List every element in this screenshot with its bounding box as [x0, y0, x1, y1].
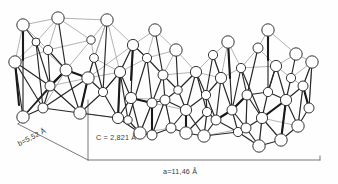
atom — [222, 36, 234, 48]
atom — [127, 39, 138, 50]
atom — [270, 60, 281, 71]
atom — [74, 107, 86, 119]
atom — [38, 103, 48, 113]
atom — [158, 70, 168, 80]
atom — [198, 130, 210, 142]
atom — [124, 116, 132, 124]
axis-label-c: C = 2,821 Å — [96, 133, 136, 142]
atom — [211, 115, 221, 125]
atom — [180, 127, 192, 139]
atom — [304, 103, 314, 113]
atom — [43, 45, 52, 54]
atom — [87, 36, 95, 44]
atom — [263, 87, 272, 96]
atom — [9, 56, 21, 68]
lattice-canvas — [0, 0, 338, 184]
atom — [215, 72, 226, 83]
atom — [149, 24, 161, 36]
atom — [82, 72, 94, 84]
atom — [17, 19, 29, 31]
atom — [242, 90, 252, 100]
atom — [32, 38, 40, 46]
atom — [262, 24, 274, 36]
atom — [52, 12, 64, 24]
atom — [286, 73, 295, 82]
atom — [275, 134, 287, 146]
atom — [208, 50, 217, 59]
atom — [101, 14, 113, 26]
atom — [90, 54, 99, 63]
atom — [170, 44, 182, 56]
atom — [112, 112, 123, 123]
atom — [280, 94, 291, 105]
crystal-structure-figure: b=5,52 Å C = 2,821 Å a=11,46 Å — [0, 0, 338, 184]
atom — [160, 95, 170, 105]
atom — [253, 140, 265, 152]
atom — [227, 105, 237, 115]
atom — [253, 43, 263, 53]
atom — [190, 66, 201, 77]
atom — [202, 107, 211, 116]
atom — [166, 123, 176, 133]
atom — [236, 63, 245, 72]
atom — [142, 53, 151, 62]
atom — [125, 92, 136, 103]
atom — [60, 64, 72, 76]
atom — [306, 56, 318, 68]
atom — [45, 81, 55, 91]
atom — [147, 130, 157, 140]
atom — [98, 87, 107, 96]
atom — [290, 48, 302, 60]
atom — [147, 98, 157, 108]
atom — [292, 120, 304, 132]
axis-label-a: a=11,46 Å — [163, 167, 197, 176]
atom — [201, 90, 210, 99]
atom — [241, 123, 251, 133]
atom — [17, 111, 29, 123]
atom — [180, 104, 191, 115]
atom — [256, 112, 267, 123]
atom — [114, 66, 125, 77]
atom — [298, 81, 308, 91]
atom — [174, 86, 182, 94]
